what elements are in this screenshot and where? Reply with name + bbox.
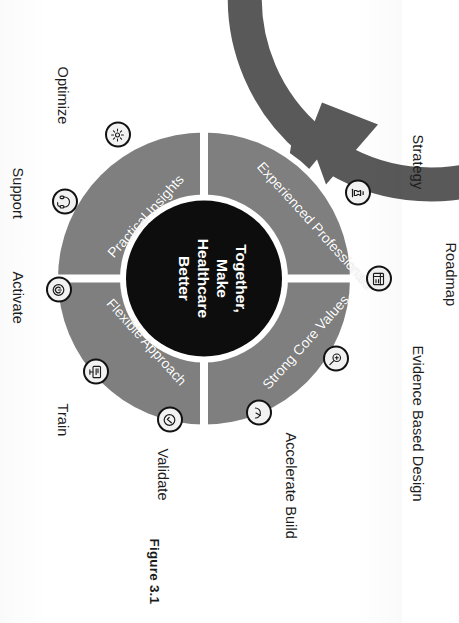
checkmark-circle-icon [163,412,178,427]
step-badge-accelerate-build[interactable] [246,399,272,425]
step-label-activate: Activate [10,271,26,323]
step-badge-activate[interactable] [46,276,72,302]
hub-tagline: Together, Make Healthcare Better [174,203,250,353]
step-badge-support[interactable] [52,188,78,214]
step-badge-evidence-based-design[interactable] [323,345,349,371]
chess-strategy-icon [351,185,366,200]
circular-process-diagram: Experienced Professionals Strong Core Va… [0,28,454,528]
training-board-icon [89,364,104,379]
evidence-design-icon [329,351,344,366]
step-label-support: Support [10,167,26,219]
power-activate-icon [52,282,67,297]
speed-gauge-icon [252,405,267,420]
hub-line: Make [212,203,231,353]
hub-line: Better [174,203,193,353]
figure-caption: Figure 3.1 [147,538,162,604]
step-label-accelerate-build: Accelerate Build [283,432,299,538]
step-label-optimize: Optimize [55,66,71,124]
support-headset-icon [58,194,73,209]
hub-line: Together, [231,203,250,353]
step-badge-strategy[interactable] [345,179,371,205]
step-badge-train[interactable] [83,358,109,384]
step-badge-roadmap[interactable] [366,265,392,291]
step-label-validate: Validate [155,448,171,500]
step-label-evidence-based-design: Evidence Based Design [410,345,426,501]
gear-optimize-icon [111,127,126,142]
step-badge-optimize[interactable] [105,121,131,147]
step-label-strategy: Strategy [410,134,426,189]
step-label-train: Train [55,403,71,436]
roadmap-icon [372,271,387,286]
step-label-roadmap: Roadmap [443,242,459,306]
step-badge-validate[interactable] [157,406,183,432]
hub-line: Healthcare [193,203,212,353]
